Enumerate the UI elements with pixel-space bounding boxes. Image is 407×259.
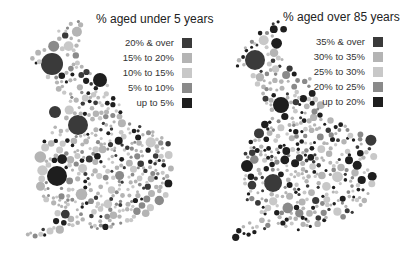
area-circle xyxy=(311,206,315,210)
area-circle xyxy=(54,76,58,80)
legend-item: 30% to 35% xyxy=(314,49,383,64)
area-circle xyxy=(47,194,50,197)
area-circle xyxy=(108,186,115,193)
area-circle xyxy=(246,156,249,159)
area-circle xyxy=(81,217,85,221)
area-circle xyxy=(110,170,113,173)
area-circle xyxy=(129,180,133,184)
area-circle xyxy=(159,154,164,159)
area-circle xyxy=(92,159,98,165)
area-circle xyxy=(265,223,270,228)
area-circle xyxy=(285,132,289,136)
swatch xyxy=(373,52,383,62)
area-circle xyxy=(305,159,309,163)
area-circle xyxy=(82,156,85,159)
area-circle xyxy=(328,161,332,165)
area-circle xyxy=(269,103,272,106)
area-circle xyxy=(106,131,110,135)
area-circle xyxy=(332,164,336,168)
area-circle xyxy=(56,86,62,92)
area-circle xyxy=(278,145,283,150)
area-circle xyxy=(294,134,299,139)
area-circle xyxy=(80,142,84,146)
area-circle xyxy=(103,142,106,145)
area-circle xyxy=(289,101,293,105)
area-circle xyxy=(94,90,97,93)
area-circle xyxy=(358,196,361,199)
area-circle xyxy=(309,225,312,228)
area-circle xyxy=(265,87,269,91)
area-circle xyxy=(87,136,90,139)
area-circle xyxy=(285,169,288,172)
area-circle xyxy=(297,228,300,231)
area-circle xyxy=(117,114,123,120)
area-circle xyxy=(356,183,360,187)
area-circle xyxy=(244,174,247,177)
area-circle xyxy=(232,234,239,241)
area-circle xyxy=(247,192,250,195)
area-circle xyxy=(102,95,105,98)
area-circle xyxy=(71,223,75,227)
area-circle xyxy=(339,182,342,185)
area-circle xyxy=(46,75,51,80)
area-circle xyxy=(79,134,82,137)
area-circle xyxy=(117,214,121,218)
area-circle xyxy=(83,69,89,75)
area-circle xyxy=(110,113,115,118)
area-circle xyxy=(265,45,269,49)
area-circle xyxy=(98,206,104,212)
area-circle xyxy=(75,176,80,181)
area-circle xyxy=(258,31,263,36)
area-circle xyxy=(146,137,156,147)
area-circle xyxy=(94,134,98,138)
area-circle xyxy=(148,190,155,197)
area-circle xyxy=(284,225,288,229)
area-circle xyxy=(86,91,90,95)
area-circle xyxy=(162,177,165,180)
area-circle xyxy=(250,40,254,44)
area-circle xyxy=(252,230,256,234)
area-circle xyxy=(307,97,312,102)
area-circle xyxy=(301,172,304,175)
area-circle xyxy=(35,151,47,163)
legend-item: up to 5% xyxy=(123,95,192,110)
area-circle xyxy=(114,154,117,157)
area-circle xyxy=(110,127,113,130)
area-circle xyxy=(243,181,247,185)
area-circle xyxy=(57,37,62,42)
area-circle xyxy=(282,147,290,155)
area-circle xyxy=(73,78,76,81)
area-circle xyxy=(284,191,287,194)
swatch xyxy=(182,98,192,108)
area-circle xyxy=(165,151,173,159)
area-circle xyxy=(323,196,330,203)
area-circle xyxy=(133,141,136,144)
area-circle xyxy=(304,218,307,221)
area-circle xyxy=(249,190,252,193)
area-circle xyxy=(156,172,160,176)
area-circle xyxy=(80,150,84,154)
area-circle xyxy=(37,165,47,175)
area-circle xyxy=(114,206,117,209)
area-circle xyxy=(264,199,268,203)
area-circle xyxy=(67,163,72,168)
area-circle xyxy=(362,198,367,203)
area-circle xyxy=(266,156,270,160)
area-circle xyxy=(58,193,64,199)
area-circle xyxy=(68,78,72,82)
area-circle xyxy=(79,112,83,116)
area-circle xyxy=(316,215,322,221)
swatch xyxy=(373,67,383,77)
area-circle xyxy=(115,171,124,180)
area-circle xyxy=(295,78,300,83)
area-circle xyxy=(67,156,74,163)
area-circle xyxy=(364,150,369,155)
area-circle xyxy=(253,146,256,149)
area-circle xyxy=(131,173,135,177)
area-circle xyxy=(353,161,362,170)
area-circle xyxy=(103,114,108,119)
area-circle xyxy=(130,142,133,145)
area-circle xyxy=(272,22,275,25)
area-circle xyxy=(301,167,306,172)
area-circle xyxy=(165,174,169,178)
